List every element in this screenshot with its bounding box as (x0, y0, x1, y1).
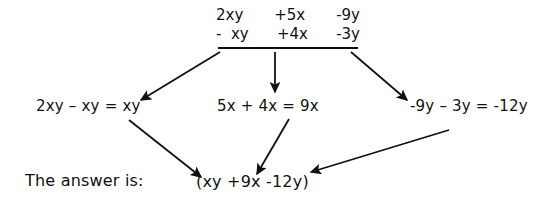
expression-subtrahend-row: - xy +4x -3y (214, 25, 362, 44)
answer-result: (xy +9x -12y) (196, 172, 309, 191)
arrow-center-to-answer (257, 119, 289, 174)
expression-minuend-row: 2xy +5x -9y (214, 6, 362, 25)
polynomial-expression: 2xy +5x -9y - xy +4x -3y (214, 6, 362, 44)
step-left-xy-term: 2xy – xy = xy (36, 97, 141, 115)
subtrahend-term-3: -3y (336, 25, 360, 44)
arrow-right-to-answer (311, 130, 449, 172)
subtrahend-term-2: +4x (277, 25, 308, 44)
minuend-term-1: 2xy (216, 6, 243, 25)
arrow-expression-to-right (351, 52, 407, 100)
worked-example-diagram: 2xy +5x -9y - xy +4x -3y 2xy – xy = xy 5… (0, 0, 542, 205)
answer-label: The answer is: (25, 171, 144, 190)
arrow-expression-to-left (141, 52, 220, 100)
step-center-x-term: 5x + 4x = 9x (217, 97, 319, 115)
minuend-term-3: -9y (336, 6, 360, 25)
expression-horizontal-rule (218, 47, 358, 49)
minuend-term-2: +5x (274, 6, 305, 25)
step-right-y-term: -9y – 3y = -12y (410, 97, 528, 115)
subtrahend-term-1: - xy (216, 25, 249, 44)
arrow-left-to-answer (129, 120, 201, 177)
